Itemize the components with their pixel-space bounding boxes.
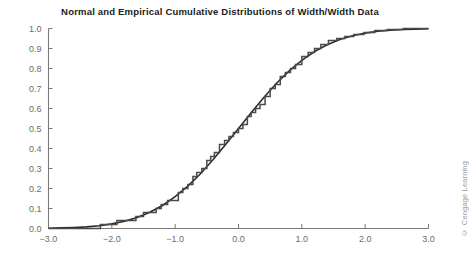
y-tick-label: 1.0: [29, 24, 42, 34]
x-tick-label: 3.0: [422, 234, 435, 244]
y-tick-label: 0.5: [29, 124, 42, 134]
y-tick-label: 0.9: [29, 44, 42, 54]
copyright-credit: © Cengage Learning: [460, 161, 469, 237]
y-tick-label: 0.6: [29, 104, 42, 114]
x-tick-label: −2.0: [103, 234, 121, 244]
y-tick-label: 0.3: [29, 164, 42, 174]
x-tick-label: −3.0: [40, 234, 58, 244]
x-tick-label: 1.0: [296, 234, 309, 244]
y-tick-label: 0.0: [29, 224, 42, 234]
y-tick-label: 0.7: [29, 84, 42, 94]
chart-figure: Normal and Empirical Cumulative Distribu…: [0, 0, 471, 255]
y-tick-label: 0.4: [29, 144, 42, 154]
x-tick-label: 0.0: [232, 234, 245, 244]
x-axis-group: −3.0−2.0−1.00.01.02.03.0: [40, 224, 435, 244]
y-tick-label: 0.8: [29, 64, 42, 74]
x-tick-label: 2.0: [359, 234, 372, 244]
empirical-cdf-step-line: [49, 29, 429, 229]
chart-plot-area: 0.00.10.20.30.40.50.60.70.80.91.0 −3.0−2…: [0, 0, 471, 255]
y-tick-label: 0.1: [29, 204, 42, 214]
y-tick-label: 0.2: [29, 184, 42, 194]
y-axis-group: 0.00.10.20.30.40.50.60.70.80.91.0: [29, 24, 53, 234]
chart-series-group: [49, 29, 429, 229]
x-axis-ticks: −3.0−2.0−1.00.01.02.03.0: [40, 224, 435, 244]
x-tick-label: −1.0: [166, 234, 184, 244]
